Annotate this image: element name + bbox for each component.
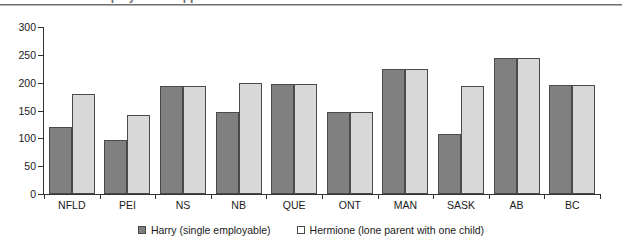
plot-area (44, 27, 600, 194)
bar-nfld-harry (49, 127, 72, 194)
bar-bc-harry (549, 85, 572, 194)
bar-ab-harry (494, 58, 517, 194)
x-axis-tick (378, 194, 379, 199)
bar-group (104, 27, 150, 194)
bar-nb-harry (216, 112, 239, 194)
bar-group (438, 27, 484, 194)
x-axis-tick (44, 194, 45, 199)
y-axis-tick (38, 166, 44, 167)
legend-entry-hermione: Hermione (lone parent with one child) (297, 224, 485, 236)
bar-group (494, 27, 540, 194)
bar-group (327, 27, 373, 194)
y-axis-tick (38, 138, 44, 139)
bar-pei-harry (104, 140, 127, 194)
bar-man-harry (382, 69, 405, 194)
legend-entry-harry: Harry (single employable) (138, 224, 271, 236)
y-axis-tick (38, 55, 44, 56)
y-axis-tick (38, 83, 44, 84)
y-axis-tick-label: 0 (2, 188, 36, 200)
x-axis-label-ns: NS (176, 199, 191, 211)
legend-label: Hermione (lone parent with one child) (310, 224, 485, 236)
bar-sask-harry (438, 134, 461, 194)
x-axis-tick (322, 194, 323, 199)
bar-group (49, 27, 95, 194)
bar-nb-hermione (239, 83, 262, 194)
x-axis-label-sask: SASK (447, 199, 475, 211)
bar-que-harry (271, 84, 294, 194)
bar-pei-hermione (127, 115, 150, 194)
y-axis-tick-label: 300 (2, 21, 36, 33)
x-axis-tick (266, 194, 267, 199)
x-axis-tick (544, 194, 545, 199)
x-axis-tick (211, 194, 212, 199)
bar-group (160, 27, 206, 194)
bar-sask-hermione (461, 86, 484, 194)
x-axis-label-bc: BC (565, 199, 580, 211)
x-axis-tick (489, 194, 490, 199)
bar-que-hermione (294, 84, 317, 194)
y-axis-tick-label: 250 (2, 49, 36, 61)
bar-ont-hermione (350, 112, 373, 194)
x-axis-tick (155, 194, 156, 199)
bar-group (271, 27, 317, 194)
x-axis-tick (100, 194, 101, 199)
y-axis-tick-label: 100 (2, 132, 36, 144)
open-square-icon (297, 226, 305, 234)
y-axis-tick-label: 50 (2, 160, 36, 172)
y-axis-tick-label: 200 (2, 77, 36, 89)
bar-ns-harry (160, 86, 183, 194)
bar-man-hermione (405, 69, 428, 194)
bar-ont-harry (327, 112, 350, 194)
bar-nfld-hermione (72, 94, 95, 194)
x-axis-label-nb: NB (231, 199, 246, 211)
y-axis-tick (38, 111, 44, 112)
x-axis-label-ab: AB (510, 199, 524, 211)
x-axis-label-pei: PEI (119, 199, 136, 211)
bar-chart: 050100150200250300 NFLDPEINSNBQUEONTMANS… (0, 0, 622, 241)
filled-dark-square-icon (138, 226, 146, 234)
x-axis-label-ont: ONT (339, 199, 361, 211)
y-axis-labels: 050100150200250300 (0, 0, 36, 241)
legend-label: Harry (single employable) (151, 224, 271, 236)
x-axis-label-man: MAN (394, 199, 417, 211)
chart-legend: Harry (single employable)Hermione (lone … (0, 222, 622, 238)
bar-ns-hermione (183, 86, 206, 194)
bar-group (216, 27, 262, 194)
y-axis-tick-label: 150 (2, 105, 36, 117)
x-axis-label-que: QUE (283, 199, 306, 211)
x-axis-label-nfld: NFLD (58, 199, 85, 211)
bar-bc-hermione (572, 85, 595, 194)
y-axis-tick (38, 27, 44, 28)
x-axis-tick (433, 194, 434, 199)
bar-ab-hermione (517, 58, 540, 194)
x-axis-tick (600, 194, 601, 199)
bar-group (382, 27, 428, 194)
bar-group (549, 27, 595, 194)
